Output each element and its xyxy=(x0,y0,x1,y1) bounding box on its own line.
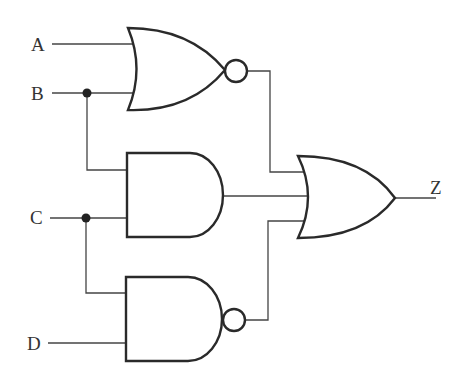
wire-c-to-nand xyxy=(86,218,127,293)
input-label-c: C xyxy=(30,207,43,228)
output-label-z: Z xyxy=(430,177,442,198)
input-label-a: A xyxy=(31,34,45,55)
nor-bubble xyxy=(225,60,247,82)
or-gate xyxy=(298,156,395,238)
nand-bubble xyxy=(223,309,245,331)
input-label-b: B xyxy=(31,83,44,104)
wire-b-to-and xyxy=(87,93,128,170)
logic-circuit-diagram: A B C D Z xyxy=(0,0,470,383)
input-label-d: D xyxy=(27,333,41,354)
nor-gate xyxy=(128,28,247,110)
and-gate xyxy=(127,153,223,237)
nand-gate xyxy=(126,277,245,361)
junction-dot-c xyxy=(82,214,91,223)
junction-dot-b xyxy=(83,89,92,98)
